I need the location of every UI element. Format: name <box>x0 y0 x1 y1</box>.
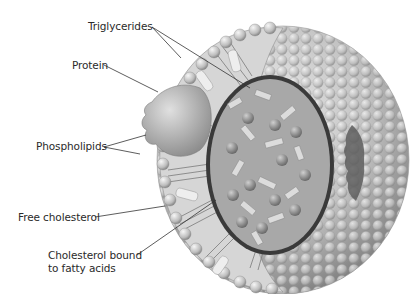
label-phospholipids: Phospholipids <box>36 140 107 152</box>
label-protein: Protein <box>72 59 108 71</box>
protein-left-shape <box>142 85 211 156</box>
label-cholesterol-bound-line2: to fatty acids <box>48 262 116 274</box>
lipoprotein-diagram: Triglycerides Protein Phospholipids Free… <box>0 0 418 294</box>
label-cholesterol-bound-line1: Cholesterol bound <box>48 249 142 261</box>
label-free-cholesterol: Free cholesterol <box>18 211 100 223</box>
label-triglycerides: Triglycerides <box>88 20 153 32</box>
